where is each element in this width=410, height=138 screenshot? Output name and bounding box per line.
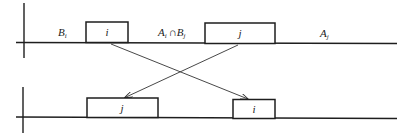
region-label-b-i: Bi xyxy=(58,26,67,40)
bottom-row: j i xyxy=(16,87,397,133)
arrow-i-to-bottom xyxy=(111,44,248,99)
arrow-j-to-bottom xyxy=(125,45,238,98)
bottom-block-i-label: i xyxy=(252,103,255,115)
diagram-svg: i j Bi Ai∩Bj Aj j i xyxy=(0,0,410,138)
swap-diagram: i j Bi Ai∩Bj Aj j i xyxy=(0,0,410,138)
region-label-a-j: Aj xyxy=(319,27,329,41)
top-block-i-label: i xyxy=(105,26,108,38)
region-label-a-i-intersect-b-j: Ai∩Bj xyxy=(157,26,185,40)
top-row: i j Bi Ai∩Bj Aj xyxy=(16,3,397,58)
swap-arrows xyxy=(111,44,248,99)
bottom-baseline xyxy=(16,117,397,119)
